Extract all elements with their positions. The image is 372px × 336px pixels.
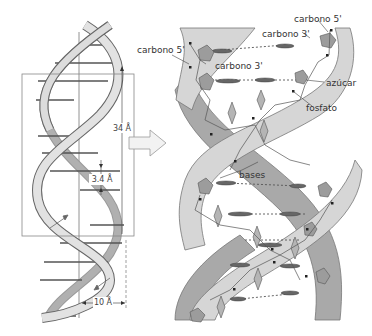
pitch-label: 34 Å	[113, 122, 132, 133]
label-carbono5-right: carbono 5'	[294, 14, 342, 24]
label-bases: bases	[239, 170, 265, 180]
label-carbono3-right: carbono 3'	[262, 29, 310, 39]
label-fosfato: fosfato	[306, 103, 338, 113]
label-azucar: azúcar	[326, 78, 356, 88]
right-helix	[175, 28, 362, 322]
label-carbono3-left: carbono 3'	[215, 61, 263, 71]
label-carbono5-left: carbono 5'	[137, 45, 185, 55]
dna-diagram: 34 Å 3.4 Å 10 Å	[0, 0, 372, 336]
zoom-arrow-icon	[129, 130, 166, 156]
diameter-label: 10 Å	[94, 296, 113, 307]
left-helix	[36, 25, 124, 318]
base-spacing-label: 3.4 Å	[92, 173, 113, 184]
